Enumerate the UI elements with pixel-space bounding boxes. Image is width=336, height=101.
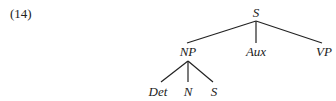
syntax-tree: S NP Aux VP Det N S [0,0,336,101]
node-det: Det [148,84,168,99]
edge-np-det [161,61,188,82]
edge-np-s [188,61,213,82]
node-vp: VP [316,44,332,59]
node-root-s: S [253,5,260,20]
node-n: N [183,84,194,99]
node-np: NP [179,44,197,59]
node-aux: Aux [245,44,266,59]
node-s-embedded: S [211,84,218,99]
edge-s-np [187,21,256,43]
edge-s-vp [256,21,322,43]
